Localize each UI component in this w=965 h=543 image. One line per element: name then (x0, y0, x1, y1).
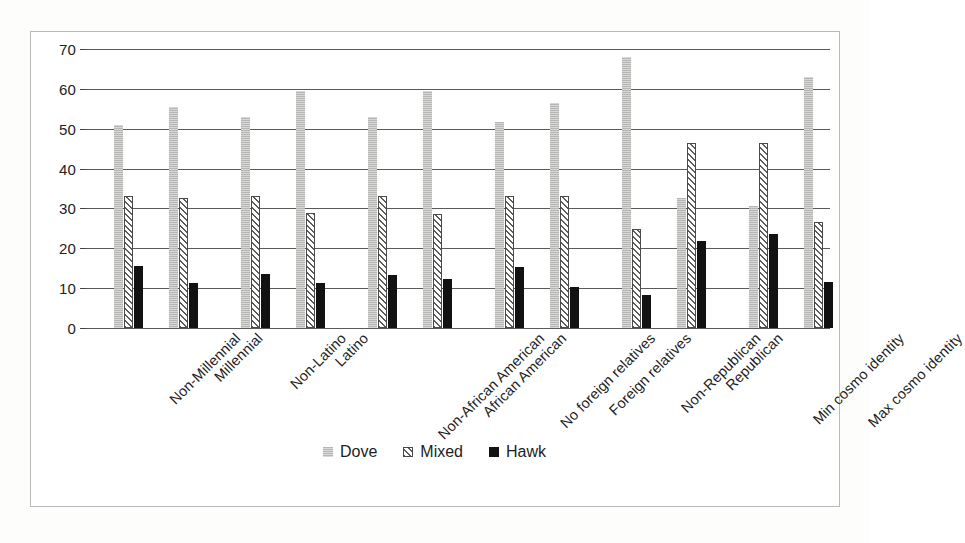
y-tick-label-40: 40 (59, 160, 76, 177)
y-tick-label-10: 10 (59, 280, 76, 297)
legend-swatch-icon (403, 447, 413, 457)
bar-dove (495, 122, 504, 328)
gridline-0 (86, 328, 830, 329)
gridline-60 (86, 89, 830, 90)
bar-hawk (697, 241, 706, 328)
bar-dove (368, 117, 377, 328)
bar-dove (114, 125, 123, 328)
bar-mixed (560, 196, 569, 328)
gridline-30 (86, 208, 830, 209)
bar-hawk (261, 274, 270, 328)
y-tick-label-60: 60 (59, 80, 76, 97)
gridline-40 (86, 169, 830, 170)
gridline-50 (86, 129, 830, 130)
bar-group (296, 49, 325, 328)
bar-mixed (378, 196, 387, 328)
bar-dove (749, 206, 758, 328)
bar-group (677, 49, 706, 328)
chart-legend: DoveMixedHawk (0, 443, 869, 461)
legend-label: Hawk (506, 443, 546, 461)
y-axis-ticks: 706050403020100 (46, 49, 76, 328)
legend-swatch-icon (323, 447, 333, 457)
bar-dove (677, 198, 686, 328)
bar-mixed (814, 222, 823, 328)
bar-group (495, 49, 524, 328)
bar-hawk (443, 279, 452, 328)
legend-item-mixed[interactable]: Mixed (403, 443, 463, 461)
y-tick-label-30: 30 (59, 200, 76, 217)
plot-area (86, 49, 830, 328)
y-tick-label-20: 20 (59, 240, 76, 257)
bar-group (114, 49, 143, 328)
bar-hawk (189, 283, 198, 328)
bar-mixed (687, 143, 696, 328)
bar-hawk (769, 234, 778, 328)
bar-hawk (316, 283, 325, 328)
gridline-10 (86, 288, 830, 289)
bar-group (804, 49, 833, 328)
legend-swatch-icon (489, 447, 499, 457)
bar-mixed (632, 229, 641, 328)
bar-mixed (433, 214, 442, 328)
bar-hawk (134, 266, 143, 328)
bar-hawk (388, 275, 397, 328)
bar-dove (296, 91, 305, 328)
y-tick-label-0: 0 (67, 320, 76, 337)
legend-label: Mixed (420, 443, 463, 461)
bar-dove (550, 103, 559, 328)
bar-dove (241, 117, 250, 328)
legend-label: Dove (340, 443, 377, 461)
bar-mixed (251, 196, 260, 328)
bar-mixed (759, 143, 768, 328)
y-tick-label-50: 50 (59, 120, 76, 137)
bar-group (423, 49, 452, 328)
bar-group (622, 49, 651, 328)
bar-group (368, 49, 397, 328)
bar-mixed (179, 198, 188, 328)
bar-dove (804, 77, 813, 328)
x-tick-label: Non-African American (434, 330, 546, 442)
legend-item-dove[interactable]: Dove (323, 443, 377, 461)
legend-item-hawk[interactable]: Hawk (489, 443, 546, 461)
y-tick-label-70: 70 (59, 41, 76, 58)
bar-group (241, 49, 270, 328)
bar-dove (423, 91, 432, 328)
bar-hawk (515, 267, 524, 328)
bar-hawk (824, 282, 833, 328)
gridline-70 (86, 49, 830, 50)
bar-group (749, 49, 778, 328)
gridline-20 (86, 248, 830, 249)
bar-group (550, 49, 579, 328)
bar-group (169, 49, 198, 328)
bar-dove (169, 107, 178, 328)
bar-mixed (124, 196, 133, 328)
bar-dove (622, 57, 631, 328)
bar-mixed (306, 213, 315, 328)
bar-hawk (570, 287, 579, 328)
bar-hawk (642, 295, 651, 328)
bar-mixed (505, 196, 514, 328)
